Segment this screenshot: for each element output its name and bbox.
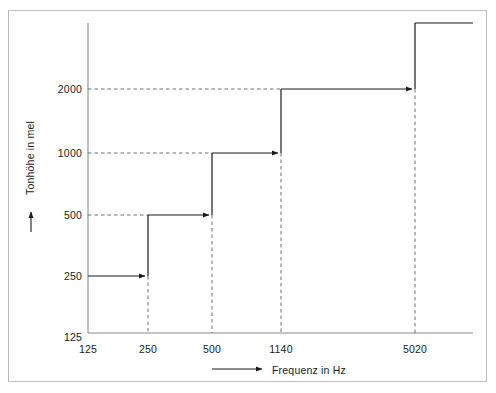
y-tick-label-250: 250 [50,270,82,282]
x-tick-label-500: 500 [203,343,221,355]
x-tick-label-125: 125 [79,343,97,355]
horizontal-guide-lines [88,89,281,215]
y-tick-label-500: 500 [50,209,82,221]
figure-container: 2000 1000 500 250 125 125 250 500 1140 5… [0,0,496,393]
y-tick-label-125: 125 [50,331,82,343]
x-axis-title-text: Frequenz in Hz [272,364,346,376]
y-tick-label-2000: 2000 [50,83,82,95]
y-axis-title: Tonhöhe in mel [20,108,40,208]
y-axis-title-text: Tonhöhe in mel [24,121,36,195]
y-tick-label-1000: 1000 [50,147,82,159]
x-tick-label-5020: 5020 [403,343,427,355]
x-tick-label-250: 250 [139,343,157,355]
x-tick-label-1140: 1140 [269,343,292,355]
